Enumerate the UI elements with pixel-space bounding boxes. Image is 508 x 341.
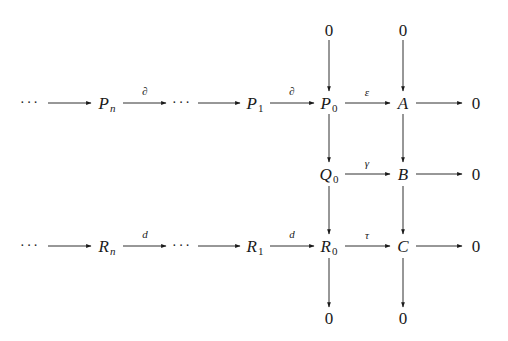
node-r-0: R0 [321,238,338,257]
node-zero-bottom-c: 0 [399,310,408,327]
node-zero-right-c: 0 [472,238,481,255]
node-subscript: 1 [258,245,264,257]
node-base: P [99,94,109,113]
ellipsis-p-mid: ··· [172,95,192,111]
arrow-label-partial-p1: ∂ [289,86,294,97]
arrow-label-partial-pn: ∂ [142,86,147,97]
arrow-label-gamma: γ [365,158,369,169]
node-base: P [247,94,257,113]
node-subscript: 1 [258,102,264,114]
node-p-1: P1 [247,95,264,114]
node-subscript: 0 [332,102,338,114]
ellipsis-r-left: ··· [20,238,40,254]
node-base: C [397,237,408,256]
arrow-label-tau: τ [365,230,369,241]
ellipsis-p-left: ··· [20,95,40,111]
arrow-label-epsilon: ε [365,87,369,98]
node-subscript: n [110,245,116,257]
node-base: 0 [472,165,481,184]
node-base: R [99,237,109,256]
node-base: R [247,237,257,256]
node-zero-top-a: 0 [399,22,408,39]
node-base: 0 [399,309,408,328]
node-zero-top-p0: 0 [325,22,334,39]
arrows-layer [0,0,508,341]
node-zero-bottom-r0: 0 [325,310,334,327]
node-p-0: P0 [321,95,338,114]
node-subscript: 0 [333,173,339,185]
node-b: B [398,166,408,183]
node-r-n: Rn [99,238,116,257]
node-q-0: Q0 [320,166,339,185]
node-base: 0 [472,237,481,256]
node-c: C [397,238,408,255]
node-a: A [398,95,408,112]
node-base: 0 [472,94,481,113]
node-base: 0 [325,21,334,40]
node-subscript: 0 [332,245,338,257]
ellipsis-r-mid: ··· [172,238,192,254]
arrow-label-d-rn: d [142,229,148,240]
node-base: Q [320,165,332,184]
node-base: A [398,94,408,113]
node-zero-right-a: 0 [472,95,481,112]
node-zero-right-b: 0 [472,166,481,183]
arrow-label-d-r1: d [289,229,295,240]
node-base: 0 [325,309,334,328]
node-base: R [321,237,331,256]
node-r-1: R1 [247,238,264,257]
node-p-n: Pn [99,95,116,114]
node-base: 0 [399,21,408,40]
node-base: P [321,94,331,113]
node-base: B [398,165,408,184]
node-subscript: n [110,102,116,114]
